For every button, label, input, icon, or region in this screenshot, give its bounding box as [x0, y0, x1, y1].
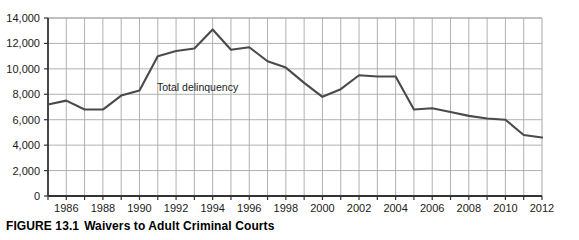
y-axis-tick-label: 0	[34, 190, 40, 202]
y-axis-tick-label: 14,000	[6, 12, 40, 24]
x-axis-tick-label: 2004	[383, 202, 407, 214]
vertical-gridlines	[66, 18, 523, 196]
x-axis-tick-label: 1998	[274, 202, 298, 214]
line-chart: 14,00012,00010,0008,0006,0004,0002,0000 …	[0, 0, 579, 240]
x-axis-tick-label: 1990	[127, 202, 151, 214]
x-axis-tick-label: 1996	[237, 202, 261, 214]
x-axis-tick-label: 1986	[54, 202, 78, 214]
data-series-group	[48, 29, 542, 137]
x-axis-tick-label: 2012	[530, 202, 554, 214]
x-axis-tick-label: 2006	[420, 202, 444, 214]
x-axis-tick-label: 1994	[200, 202, 224, 214]
series-annotation-group: Total delinquency	[157, 81, 239, 93]
y-axis-tick-labels: 14,00012,00010,0008,0006,0004,0002,0000	[6, 12, 40, 202]
figure-number: FIGURE 13.1	[6, 219, 79, 233]
plot-frame	[48, 18, 542, 196]
series-annotation-label: Total delinquency	[157, 81, 239, 93]
series-line-total-delinquency	[48, 29, 542, 137]
figure-caption: FIGURE 13.1Waivers to Adult Criminal Cou…	[6, 219, 274, 233]
y-axis-tick-label: 12,000	[6, 37, 40, 49]
figure-container: 14,00012,00010,0008,0006,0004,0002,0000 …	[0, 0, 579, 240]
y-axis-tick-label: 4,000	[12, 139, 40, 151]
y-axis-tick-label: 6,000	[12, 114, 40, 126]
y-axis-tick-label: 2,000	[12, 165, 40, 177]
x-axis-tick-label: 1988	[91, 202, 115, 214]
figure-title: Waivers to Adult Criminal Courts	[84, 219, 274, 233]
y-axis-tick-label: 10,000	[6, 63, 40, 75]
x-axis-tick-label: 2010	[493, 202, 517, 214]
y-axis-tick-label: 8,000	[12, 88, 40, 100]
x-axis-tick-label: 2008	[457, 202, 481, 214]
x-axis-tick-label: 2000	[310, 202, 334, 214]
x-axis-tick-label: 2002	[347, 202, 371, 214]
x-axis-tick-label: 1992	[164, 202, 188, 214]
x-axis-tick-labels: 1986198819901992199419961998200020022004…	[54, 202, 554, 214]
